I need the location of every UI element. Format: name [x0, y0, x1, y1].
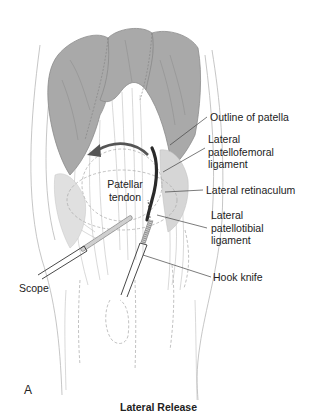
label-line: patellofemoral — [208, 146, 274, 159]
label-lateral-patellotibial-ligament: Lateral patellotibial ligament — [211, 209, 264, 247]
lower-leg-lines — [65, 290, 197, 400]
label-line: ligament — [211, 234, 264, 247]
label-line: Patellar — [100, 178, 150, 191]
label-patellar-tendon: Patellar tendon — [100, 178, 150, 203]
figure-caption: Lateral Release — [0, 401, 317, 411]
label-line: ligament — [208, 158, 274, 171]
knee-lateral-release-illustration — [0, 0, 317, 411]
patella-tilt-arrow — [87, 144, 148, 157]
label-line: patellotibial — [211, 222, 264, 235]
label-line: Lateral — [211, 209, 264, 222]
medial-retinaculum-region — [54, 174, 85, 248]
label-hook-knife: Hook knife — [213, 271, 263, 284]
panel-letter: A — [24, 383, 32, 397]
label-scope: Scope — [19, 282, 49, 295]
label-line: tendon — [100, 191, 150, 204]
label-lateral-patellofemoral-ligament: Lateral patellofemoral ligament — [208, 133, 274, 171]
leader-hook-knife — [143, 255, 211, 277]
label-line: Lateral — [208, 133, 274, 146]
leader-lateral-patellotibial-ligament — [157, 215, 207, 228]
label-outline-of-patella: Outline of patella — [210, 111, 289, 124]
label-lateral-retinaculum: Lateral retinaculum — [206, 184, 295, 197]
